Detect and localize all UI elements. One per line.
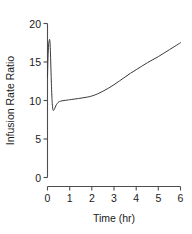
x-tick-label: 1 bbox=[67, 192, 73, 204]
x-tick-label: 0 bbox=[45, 192, 51, 204]
x-tick-label: 2 bbox=[89, 192, 95, 204]
x-tick-label: 5 bbox=[155, 192, 161, 204]
data-line-infusion-rate-ratio bbox=[48, 39, 181, 110]
x-axis-tick-labels: 0 1 2 3 4 5 6 bbox=[45, 192, 184, 204]
chart-figure: 20 15 10 5 0 0 1 2 3 4 5 6 Time (hr) bbox=[0, 0, 192, 234]
x-tick-label: 6 bbox=[178, 192, 184, 204]
y-axis-title: Infusion Rate Ratio bbox=[4, 56, 16, 145]
x-axis-ticks bbox=[48, 187, 181, 191]
y-axis-tick-labels: 20 15 10 5 0 bbox=[29, 18, 41, 184]
y-tick-label: 20 bbox=[29, 18, 41, 30]
y-tick-label: 5 bbox=[35, 133, 41, 145]
y-tick-label: 10 bbox=[29, 95, 41, 107]
infusion-rate-ratio-line-chart: 20 15 10 5 0 0 1 2 3 4 5 6 Time (hr) bbox=[0, 0, 192, 234]
y-tick-label: 15 bbox=[29, 56, 41, 68]
x-axis-title: Time (hr) bbox=[93, 212, 135, 224]
y-axis-ticks bbox=[44, 24, 48, 178]
x-tick-label: 3 bbox=[111, 192, 117, 204]
x-tick-label: 4 bbox=[133, 192, 139, 204]
y-tick-label: 0 bbox=[35, 172, 41, 184]
